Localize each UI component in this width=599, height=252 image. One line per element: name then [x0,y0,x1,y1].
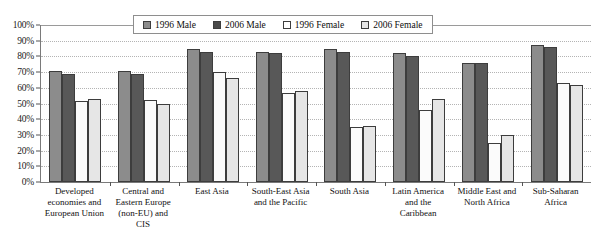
legend-swatch-icon [283,21,291,29]
bar [75,101,88,182]
bar [213,72,226,182]
y-tick-label: 10% [17,161,34,171]
legend-item: 2006 Female [361,20,422,30]
bar [49,71,62,182]
legend-label: 2006 Female [373,20,422,30]
bar [337,52,350,182]
category-label: East Asia [178,186,247,230]
legend-swatch-icon [213,21,221,29]
bar [363,126,376,182]
plot-area [40,25,591,183]
category-label: South Asia [315,186,384,230]
bar [462,63,475,182]
bar-group [522,25,591,182]
bar [200,52,213,182]
legend-label: 2006 Male [225,20,266,30]
bar-group [316,25,385,182]
y-tick-label: 70% [17,67,34,77]
category-label: South-East Asia and the Pacific [246,186,315,230]
category-label: Central and Eastern Europe (non-EU) and … [109,186,178,230]
bar [393,53,406,182]
bar [350,127,363,182]
bar [118,71,131,182]
bar [406,56,419,182]
bar [544,47,557,182]
bar [419,110,432,182]
bar [187,49,200,182]
legend-label: 1996 Female [295,20,344,30]
legend-item: 1996 Female [283,20,344,30]
category-label: Latin America and the Caribbean [384,186,453,230]
bar-groups [41,25,591,182]
bar-group [385,25,454,182]
bar [488,143,501,182]
bar [324,49,337,182]
legend-label: 1996 Male [155,20,196,30]
bar [256,52,269,182]
legend-swatch-icon [361,21,369,29]
y-tick-label: 80% [17,51,34,61]
bar [157,104,170,183]
legend-swatch-icon [143,21,151,29]
bar [226,78,239,182]
bar [88,99,101,182]
bar-group [247,25,316,182]
chart-legend: 1996 Male2006 Male1996 Female2006 Female [133,15,433,34]
bar-group [41,25,110,182]
y-tick-label: 30% [17,130,34,140]
bar [557,83,570,182]
bar [570,85,583,182]
bar-group [110,25,179,182]
x-axis-category-labels: Developed economies and European UnionCe… [40,186,590,230]
bar [501,135,514,182]
y-tick-label: 40% [17,114,34,124]
bar-group [179,25,248,182]
bar [144,100,157,182]
bar-chart: 0%10%20%30%40%50%60%70%80%90%100% Develo… [0,0,599,252]
y-tick-label: 20% [17,146,34,156]
category-label: Middle East and North Africa [453,186,522,230]
legend-item: 1996 Male [143,20,196,30]
y-axis: 0%10%20%30%40%50%60%70%80%90%100% [0,0,40,252]
bar [62,74,75,182]
category-label: Sub-Saharan Africa [521,186,590,230]
legend-item: 2006 Male [213,20,266,30]
y-tick-label: 60% [17,83,34,93]
bar-group [454,25,523,182]
y-tick-label: 50% [17,99,34,109]
bar [269,53,282,182]
y-tick-label: 90% [17,36,34,46]
bar [131,74,144,182]
bar [531,45,544,182]
bar [475,63,488,182]
bar [432,99,445,182]
category-label: Developed economies and European Union [40,186,109,230]
bar [295,91,308,182]
bar [282,93,295,182]
y-tick-label: 100% [13,20,34,30]
y-tick-label: 0% [22,177,34,187]
